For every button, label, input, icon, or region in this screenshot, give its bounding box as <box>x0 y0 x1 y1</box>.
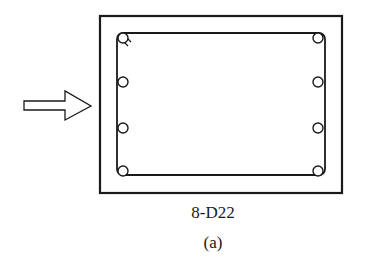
rebar-circle <box>118 77 128 87</box>
rebar-circle <box>118 123 128 133</box>
rebar-spec-label: 8-D22 <box>0 203 365 223</box>
rebar-circle <box>118 166 128 176</box>
hollow-arrow-right-icon <box>24 91 91 120</box>
rebar-circle <box>118 33 128 43</box>
rebar-circle <box>313 77 323 87</box>
rebar-circle <box>313 123 323 133</box>
rebar-circle <box>313 33 323 43</box>
concrete-section-outline <box>100 16 342 193</box>
figure-caption: (a) <box>0 233 365 253</box>
rebar-circle <box>313 166 323 176</box>
stirrup-hoop <box>117 33 325 175</box>
